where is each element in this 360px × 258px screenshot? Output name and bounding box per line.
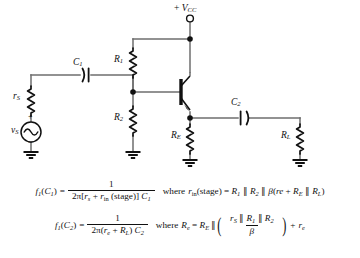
label-r2: R2 — [114, 113, 123, 123]
eq2-open-paren: ( — [218, 218, 222, 232]
circuit-schematic — [0, 0, 360, 175]
source-minus-sign: − — [28, 139, 33, 147]
eq1-rhs: rin(stage) = R1 ∥ R2 ∥ β(re + RE ∥ RL) — [188, 185, 324, 197]
eq2-numerator: 1 — [111, 214, 124, 224]
eq2-where: where — [156, 220, 178, 230]
label-vs: vS — [11, 126, 19, 136]
eq2-equals: = — [79, 220, 84, 230]
label-r1: R1 — [114, 55, 123, 65]
eq2-tail: re — [299, 220, 305, 231]
label-c2: C2 — [231, 98, 241, 108]
eq1-denominator: 2π[rs + rin (stage)] C1 — [68, 190, 155, 202]
eq2-inner-numerator: rS ∥ R1 ∥ R2 — [226, 214, 278, 225]
resistor-rl — [297, 124, 304, 154]
ground-re — [183, 160, 198, 166]
eq2-fraction: 1 2π(re + RL) C2 — [87, 214, 147, 236]
capacitor-c1 — [83, 69, 89, 82]
vcc-terminal-circle — [187, 15, 194, 22]
ground-rl — [293, 160, 308, 166]
eq2-inner-fraction: rS ∥ R1 ∥ R2 β — [226, 214, 278, 236]
label-re: RE — [171, 131, 181, 141]
resistor-re — [187, 124, 194, 154]
capacitor-c2 — [241, 112, 249, 125]
eq1-lhs: f1(C1) — [36, 186, 57, 197]
label-rs: rS — [13, 92, 20, 102]
eq2-rhs: Re = RE ∥ — [181, 219, 216, 231]
equation-1: f1(C1) = 1 2π[rs + rin (stage)] C1 where… — [0, 180, 360, 202]
eq2-lhs: f1(C2) — [55, 220, 76, 231]
eq2-inner-denominator: β — [246, 225, 259, 237]
resistor-r2 — [130, 106, 137, 136]
ground-source — [24, 152, 39, 158]
resistor-r1 — [130, 48, 137, 78]
eq1-where: where — [163, 186, 185, 196]
source-plus-sign: + — [28, 113, 33, 121]
vcc-label: + VCC — [174, 4, 196, 14]
eq1-fraction: 1 2π[rs + rin (stage)] C1 — [68, 180, 155, 202]
eq1-equals: = — [60, 186, 65, 196]
ground-r2 — [126, 152, 141, 158]
eq2-plus: + — [290, 220, 295, 230]
eq1-numerator: 1 — [105, 180, 118, 190]
eq2-denominator: 2π(re + RL) C2 — [87, 224, 147, 236]
figure-root: + VCC rS vS + − C1 R1 R2 RE C2 RL f1(C1)… — [0, 0, 360, 258]
wire-network — [31, 22, 300, 160]
npn-transistor — [181, 72, 190, 111]
label-rl: RL — [281, 131, 290, 141]
junction-nodes — [130, 36, 193, 121]
equation-2: f1(C2) = 1 2π(re + RL) C2 where Re = RE … — [0, 214, 360, 236]
eq2-close-paren: ) — [282, 218, 286, 232]
label-c1: C1 — [73, 58, 83, 68]
